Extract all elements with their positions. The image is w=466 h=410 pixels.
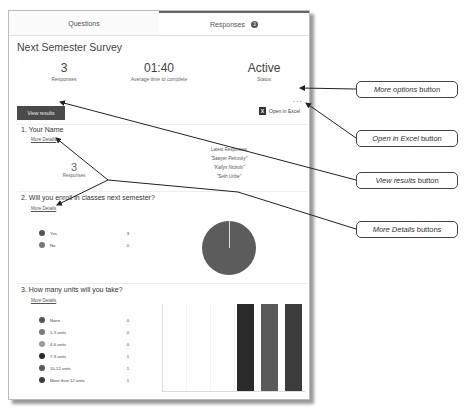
callout-emphasis: More options [374, 85, 417, 94]
enroll-pie-chart [202, 221, 256, 275]
bar-7-9-units [237, 304, 254, 391]
legend-dot [39, 230, 45, 236]
stat-label: Responses [39, 76, 89, 82]
legend-item: More than 12 units1 [39, 377, 129, 383]
view-results-button[interactable]: View results [17, 106, 65, 120]
legend-item: None0 [39, 317, 129, 323]
stat-value: Active [234, 61, 294, 75]
latest-responses: Latest Responses "Sawyer Petrosky" "Kall… [189, 147, 269, 179]
tab-responses-label: Responses [210, 21, 245, 28]
latest-response: "Sawyer Petrosky" [189, 156, 269, 161]
legend-count: 1 [127, 366, 129, 371]
callout-text: buttons [417, 225, 442, 234]
legend-label: None [50, 318, 60, 323]
tab-questions-label: Questions [68, 20, 100, 27]
callout-text: button [418, 176, 439, 185]
legend-dot [39, 317, 45, 323]
legend-count: 0 [127, 330, 129, 335]
stat-status: Active Status [234, 61, 294, 82]
legend-label: 4-6 units [50, 342, 66, 347]
legend-dot [39, 353, 45, 359]
legend-label: Yes [50, 231, 57, 236]
legend-label: 7-9 units [50, 354, 66, 359]
units-bar-chart [162, 304, 305, 392]
latest-response: "Seth Uribe" [189, 174, 269, 179]
stat-value: 3 [39, 61, 89, 75]
callout-emphasis: More Details [373, 225, 415, 234]
legend-item-yes: Yes 3 [39, 230, 129, 236]
summary-stats: 3 Responses 01:40 Average time to comple… [9, 61, 309, 91]
responses-count-badge: 3 [251, 21, 258, 28]
gridline [234, 304, 235, 391]
more-details-link[interactable]: More Details [31, 298, 56, 303]
stat-label: Status [234, 76, 294, 82]
callout-emphasis: View results [375, 176, 415, 185]
legend-count: 0 [127, 318, 129, 323]
tab-questions[interactable]: Questions [9, 11, 159, 35]
stat-label: Average time to complete [119, 76, 199, 82]
legend-count: 1 [127, 378, 129, 383]
legend-dot [39, 329, 45, 335]
gridline [186, 304, 187, 391]
latest-response: "Kallyn Nickols" [189, 165, 269, 170]
question-2-title: 2. Will you enroll in classes next semes… [21, 194, 155, 201]
divider [17, 191, 307, 192]
forms-panel: Questions Responses3 Next Semester Surve… [8, 10, 310, 400]
callout-more-details: More Details buttons [356, 221, 458, 238]
responses-count: 3 [57, 161, 91, 173]
more-details-link[interactable]: More Details [31, 137, 56, 142]
question-1-title: 1. Your Name [21, 126, 63, 133]
legend-count: 0 [127, 243, 129, 248]
question-3-title: 3. How many units will you take? [21, 286, 123, 293]
legend-label: 10-12 units [50, 366, 71, 371]
bar-more-than-12-units [285, 304, 302, 391]
more-options-button[interactable]: ... [293, 95, 303, 104]
open-in-excel-label: Open in Excel [269, 108, 300, 114]
stat-responses: 3 Responses [39, 61, 89, 82]
legend-item: 4-6 units0 [39, 341, 129, 347]
callout-open-in-excel: Open in Excel button [356, 130, 458, 147]
callout-emphasis: Open in Excel [372, 134, 419, 143]
question-1-responses: 3 Responses [57, 161, 91, 178]
legend-dot [39, 377, 45, 383]
legend-dot [39, 365, 45, 371]
divider [17, 124, 307, 125]
legend-item: 1-3 units0 [39, 329, 129, 335]
callout-text: button [419, 85, 440, 94]
callout-more-options: More options button [356, 81, 458, 98]
legend-dot [39, 242, 45, 248]
callout-text: button [421, 134, 442, 143]
more-details-link[interactable]: More Details [31, 206, 56, 211]
legend-count: 3 [127, 231, 129, 236]
stat-value: 01:40 [119, 61, 199, 75]
legend-label: 1-3 units [50, 330, 66, 335]
legend-count: 1 [127, 354, 129, 359]
survey-title: Next Semester Survey [17, 41, 122, 53]
open-in-excel-button[interactable]: X Open in Excel [259, 107, 300, 115]
legend-item: 10-12 units1 [39, 365, 129, 371]
legend-dot [39, 341, 45, 347]
legend-item: 7-9 units1 [39, 353, 129, 359]
gridline [210, 304, 211, 391]
callout-view-results: View results button [356, 172, 458, 189]
legend-label: No [50, 243, 55, 248]
legend-item-no: No 0 [39, 242, 129, 248]
latest-responses-label: Latest Responses [189, 147, 269, 152]
tab-bar: Questions Responses3 [9, 11, 309, 36]
stat-average-time: 01:40 Average time to complete [119, 61, 199, 82]
tab-responses[interactable]: Responses3 [159, 11, 309, 35]
divider [17, 283, 307, 284]
bar-10-12-units [261, 304, 278, 391]
legend-count: 0 [127, 342, 129, 347]
pie-slice-divider [229, 221, 230, 248]
responses-label: Responses [57, 173, 91, 178]
excel-icon: X [259, 107, 266, 115]
legend-label: More than 12 units [50, 378, 85, 383]
